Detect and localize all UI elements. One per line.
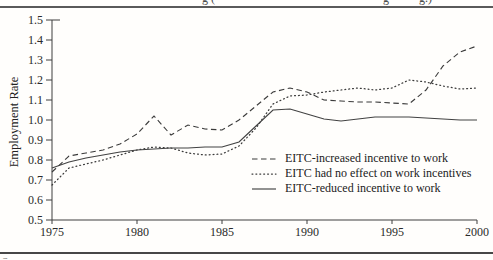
y-tick-label: 0.6 xyxy=(28,193,43,207)
y-tick-label: 1.2 xyxy=(28,73,43,87)
y-tick-label: 0.9 xyxy=(28,133,43,147)
solid-line-icon xyxy=(251,187,277,191)
legend-item-reduced-incentive: EITC-reduced incentive to work xyxy=(251,181,471,196)
bottom-rule xyxy=(0,252,493,254)
legend-item-no-effect: EITC had no effect on work incentives xyxy=(251,166,471,181)
y-tick-label: 1.0 xyxy=(28,113,43,127)
y-tick-label: 0.7 xyxy=(28,173,43,187)
x-tick-label: 1985 xyxy=(210,225,234,239)
x-tick-label: 1990 xyxy=(295,225,319,239)
clipped-bottom-caption: Source: ... xyxy=(0,255,493,259)
y-tick-label: 1.1 xyxy=(28,93,43,107)
employment-rate-line-chart: 0.50.60.70.80.91.01.11.21.31.41.51975198… xyxy=(0,0,493,260)
legend-label: EITC had no effect on work incentives xyxy=(285,166,471,181)
x-tick-label: 1975 xyxy=(40,225,64,239)
y-tick-label: 1.5 xyxy=(28,13,43,27)
x-tick-label: 1995 xyxy=(380,225,404,239)
y-axis-label: Employment Rate xyxy=(7,22,23,222)
chart-legend: EITC-increased incentive to work EITC ha… xyxy=(251,151,471,196)
x-tick-label: 2000 xyxy=(465,225,489,239)
bottom-caption-fragment: Source: ... xyxy=(2,255,47,259)
legend-item-increased-incentive: EITC-increased incentive to work xyxy=(251,151,471,166)
book-figure-page: g ( g g.) 0.50.60.70.80.91.01.11.21.31.4… xyxy=(0,0,493,260)
x-tick-label: 1980 xyxy=(125,225,149,239)
y-tick-label: 1.4 xyxy=(28,33,43,47)
legend-label: EITC-increased incentive to work xyxy=(285,151,448,166)
y-tick-label: 1.3 xyxy=(28,53,43,67)
dotted-line-icon xyxy=(251,172,277,176)
legend-label: EITC-reduced incentive to work xyxy=(285,181,441,196)
y-tick-label: 0.8 xyxy=(28,153,43,167)
dashed-line-icon xyxy=(251,157,277,161)
